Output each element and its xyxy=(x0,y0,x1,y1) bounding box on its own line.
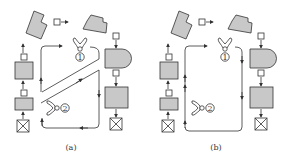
machine-right-upper xyxy=(105,49,132,68)
machine-top-left xyxy=(26,11,47,39)
panel-b-caption: (b) xyxy=(210,143,221,152)
machine-right-upper xyxy=(250,49,277,68)
machine-left-upper xyxy=(160,62,178,79)
robot-1-label: 1 xyxy=(77,53,82,62)
robot-1-icon: 1 xyxy=(218,38,232,62)
robot-2-label: 2 xyxy=(62,104,67,113)
robot-1-label: 1 xyxy=(222,53,227,62)
robot-2-label: 2 xyxy=(207,104,212,113)
machine-right-lower xyxy=(250,87,273,108)
machine-right-lower xyxy=(105,87,128,108)
machine-top-right xyxy=(228,15,252,33)
panel-b: 1 2 (b) xyxy=(160,11,277,152)
robot-1-icon: 1 xyxy=(73,38,87,62)
buffer-top xyxy=(54,19,60,25)
machine-left-upper xyxy=(15,62,33,79)
machine-top-right xyxy=(83,15,107,33)
machine-left-lower xyxy=(15,98,33,110)
panel-a-caption: (a) xyxy=(65,143,76,152)
machine-top-left xyxy=(171,11,192,39)
machine-left-lower xyxy=(160,98,178,110)
robot-2-icon: 2 xyxy=(192,101,214,116)
panel-a: 1 2 (a) xyxy=(15,11,132,152)
manufacturing-cell-diagram: 1 2 (a) xyxy=(0,0,289,166)
robot-2-icon: 2 xyxy=(47,101,69,116)
